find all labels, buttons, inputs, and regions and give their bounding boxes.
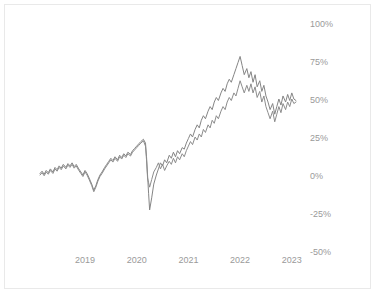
y-axis-tick-labels: 100%75%50%25%0%-25%-50% [310,19,333,257]
y-axis-tick-label: 25% [310,133,328,143]
x-axis-tick-label: 2021 [178,255,198,265]
chart-line-series-b [40,81,296,192]
y-axis-tick-label: 50% [310,95,328,105]
series-group [40,56,296,210]
y-axis-tick-label: 100% [310,19,333,29]
chart-line-series-a [40,56,296,210]
x-axis-tick-label: 2020 [127,255,147,265]
x-axis-tick-labels: 20192020202120222023 [75,255,302,265]
x-axis-tick-label: 2023 [282,255,302,265]
y-axis-tick-label: -50% [310,247,331,257]
x-axis-tick-label: 2019 [75,255,95,265]
chart-plot-area: 100%75%50%25%0%-25%-50% 2019202020212022… [0,0,379,297]
line-chart: 100%75%50%25%0%-25%-50% 2019202020212022… [0,0,379,297]
x-axis-tick-label: 2022 [230,255,250,265]
y-axis-tick-label: 75% [310,57,328,67]
y-axis-tick-label: -25% [310,209,331,219]
y-axis-tick-label: 0% [310,171,323,181]
